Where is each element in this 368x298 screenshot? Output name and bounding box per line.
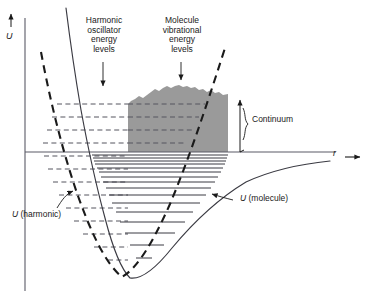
potential-energy-diagram: Harmonic oscillator energy levels Molecu… (0, 0, 368, 298)
molecule-curve-label-text: (molecule) (246, 193, 288, 203)
harmonic-label-leader (57, 191, 73, 208)
harmonic-curve-label: U (harmonic) (12, 210, 61, 220)
molecule-label-leader (212, 194, 233, 200)
continuum-brace (240, 100, 248, 152)
x-axis-label: r (333, 148, 336, 158)
continuum-region (128, 85, 228, 152)
molecule-levels-caption: Molecule vibrational energy levels (148, 16, 216, 54)
molecule-curve-label: U (molecule) (240, 194, 288, 204)
continuum-label: Continuum (252, 115, 293, 125)
y-axis-label: U (6, 31, 13, 41)
harmonic-curve-label-text: (harmonic) (18, 209, 61, 219)
harmonic-levels-caption: Harmonic oscillator energy levels (70, 16, 138, 54)
harmonic-potential-curve (41, 48, 225, 277)
